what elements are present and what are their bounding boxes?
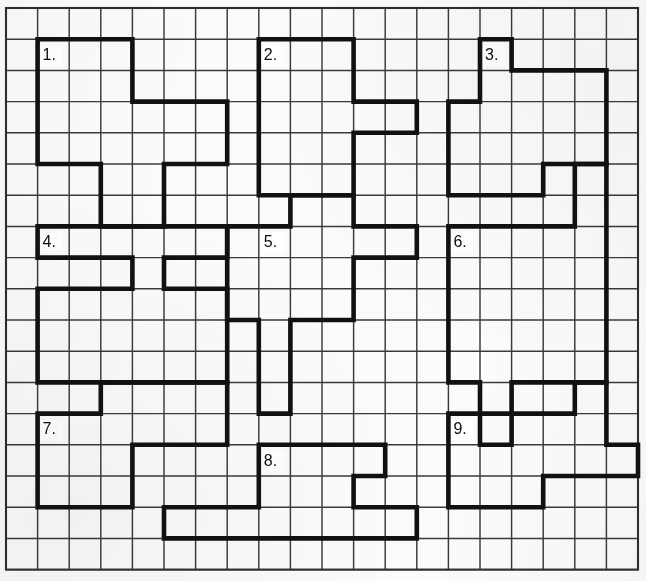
shape-label-3: 3. — [485, 46, 498, 63]
shape-label-7: 7. — [43, 420, 56, 437]
shape-outline-3 — [448, 39, 606, 195]
shape-label-1: 1. — [43, 46, 56, 63]
grid-shapes-diagram: 1.2.3.4.5.6.7.8.9. — [0, 0, 646, 581]
shape-label-2: 2. — [264, 46, 277, 63]
shape-label-6: 6. — [453, 233, 466, 250]
shape-label-5: 5. — [264, 233, 277, 250]
worksheet-sheet: 1.2.3.4.5.6.7.8.9. — [0, 0, 646, 581]
shape-label-4: 4. — [43, 233, 56, 250]
shape-outline-6 — [448, 164, 606, 445]
shape-label-9: 9. — [453, 420, 466, 437]
shape-label-8: 8. — [264, 452, 277, 469]
